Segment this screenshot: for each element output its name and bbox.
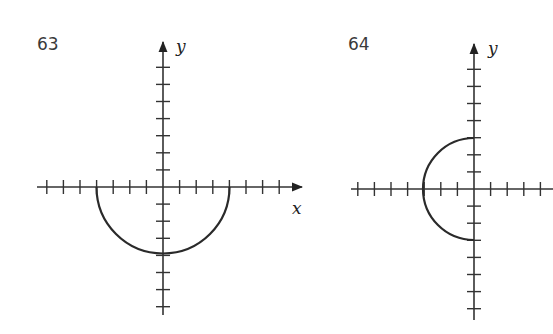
y-axis-label: y	[487, 38, 498, 58]
graphs: y x y	[0, 0, 553, 334]
y-axis-label: y	[175, 36, 186, 56]
x-axis-label: x	[292, 198, 302, 218]
graph-64: y	[351, 38, 553, 320]
graph-63: y x	[37, 36, 302, 315]
